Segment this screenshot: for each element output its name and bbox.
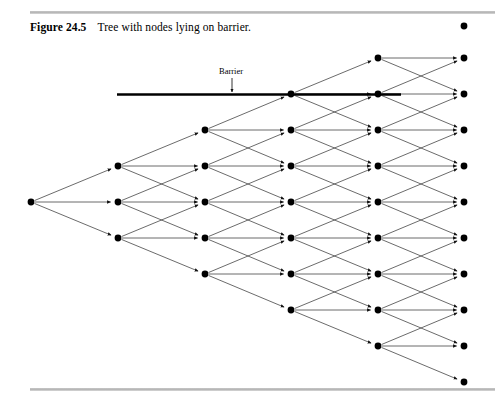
tree-node: [288, 127, 295, 134]
tree-edge: [295, 203, 372, 235]
tree-edge: [122, 169, 199, 201]
tree-edge: [209, 97, 285, 129]
tree-node: [288, 91, 295, 98]
tree-edge: [209, 240, 285, 272]
tree-edge: [122, 239, 199, 271]
tree-node: [288, 235, 295, 242]
tree-node: [202, 127, 209, 134]
tree-edge: [209, 276, 285, 308]
bottom-horizontal-rule: [30, 388, 495, 391]
tree-edge: [295, 95, 372, 127]
tree-edge: [295, 241, 372, 273]
tree-node: [461, 163, 468, 170]
tree-node: [375, 91, 382, 98]
tree-edge: [209, 132, 285, 164]
tree-node: [288, 199, 295, 206]
barrier-label: Barrier: [219, 66, 243, 76]
tree-edge: [295, 277, 372, 309]
tree-node: [461, 379, 468, 386]
tree-edge: [209, 133, 285, 165]
tree-edge: [382, 276, 458, 308]
tree-edge: [382, 312, 458, 344]
tree-edge: [295, 275, 372, 307]
figure-page: Figure 24.5Tree with nodes lying on barr…: [0, 0, 499, 406]
tree-edge: [209, 204, 285, 236]
tree-node: [288, 307, 295, 314]
tree-node: [461, 199, 468, 206]
tree-node: [461, 271, 468, 278]
trinomial-tree-diagram: [0, 0, 499, 406]
tree-node: [288, 271, 295, 278]
tree-edge: [382, 97, 458, 129]
tree-edge: [295, 311, 372, 343]
tree-edge: [209, 169, 285, 201]
tree-edge: [382, 240, 458, 272]
tree-node: [115, 163, 122, 170]
tree-node: [375, 163, 382, 170]
tree-node: [461, 235, 468, 242]
tree-node: [202, 199, 209, 206]
tree-node: [461, 307, 468, 314]
tree-edge: [382, 205, 458, 237]
tree-node: [375, 271, 382, 278]
tree-node: [28, 199, 35, 206]
tree-edge: [209, 241, 285, 273]
tree-edge: [382, 96, 458, 128]
tree-node: [461, 343, 468, 350]
tree-node: [375, 343, 382, 350]
tree-edge: [295, 97, 372, 129]
tree-node: [375, 307, 382, 314]
tree-edge: [35, 203, 112, 235]
tree-edge: [382, 204, 458, 236]
tree-node: [115, 235, 122, 242]
tree-edge: [295, 205, 372, 237]
tree-node: [202, 271, 209, 278]
tree-node: [115, 199, 122, 206]
tree-node: [288, 163, 295, 170]
tree-edge: [382, 169, 458, 201]
tree-node: [375, 55, 382, 62]
tree-edge: [122, 203, 199, 235]
tree-edge: [382, 60, 458, 92]
tree-edges: [35, 58, 458, 379]
tree-edge: [122, 167, 199, 199]
tree-edge: [382, 61, 458, 93]
tree-node: [202, 235, 209, 242]
tree-edge: [382, 168, 458, 200]
tree-node: [375, 127, 382, 134]
tree-edge: [35, 169, 112, 201]
tree-edge: [382, 277, 458, 309]
tree-node: [461, 91, 468, 98]
tree-edge: [295, 131, 372, 163]
tree-edge: [295, 169, 372, 201]
tree-edge: [122, 133, 199, 165]
tree-edge: [382, 132, 458, 164]
tree-edge: [295, 61, 372, 93]
tree-edge: [382, 313, 458, 345]
tree-node: [461, 23, 468, 30]
tree-edge: [295, 167, 372, 199]
tree-node: [375, 235, 382, 242]
tree-nodes: [28, 23, 468, 386]
barrier-line-group: [117, 78, 401, 95]
tree-edge: [209, 168, 285, 200]
tree-edge: [382, 348, 458, 380]
tree-edge: [209, 205, 285, 237]
tree-node: [202, 163, 209, 170]
tree-node: [461, 55, 468, 62]
tree-edge: [122, 205, 199, 237]
tree-node: [375, 199, 382, 206]
tree-node: [461, 127, 468, 134]
tree-edge: [295, 133, 372, 165]
tree-edge: [382, 241, 458, 273]
tree-edge: [382, 133, 458, 165]
tree-edge: [295, 239, 372, 271]
